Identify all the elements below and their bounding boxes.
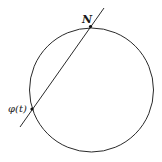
stereographic-diagram: N φ(t) <box>0 0 162 162</box>
north-pole-label: N <box>81 13 93 26</box>
phi-t-label: φ(t) <box>8 103 27 114</box>
phi-t-point <box>30 107 33 110</box>
unit-circle <box>30 28 154 152</box>
